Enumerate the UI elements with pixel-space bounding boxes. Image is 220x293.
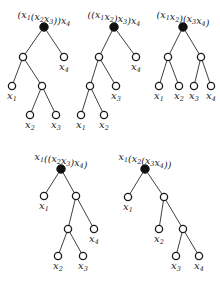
leaf-label: x1 — [123, 201, 133, 214]
tree-edge — [160, 60, 167, 82]
leaf-node-x2 — [54, 252, 61, 259]
leaf-label: x4 — [131, 61, 141, 74]
root-node — [141, 165, 149, 173]
root-node — [179, 23, 187, 31]
leaf-node-x4 — [90, 225, 97, 232]
tree-edge — [59, 232, 66, 252]
leaf-label: x3 — [78, 260, 88, 273]
tree-edge — [116, 30, 133, 54]
inner-node — [72, 192, 79, 199]
leaf-label: x1 — [154, 90, 164, 103]
leaf-node-x2 — [26, 111, 33, 118]
leaf-node-x4 — [207, 82, 214, 89]
inner-node — [197, 53, 204, 60]
tree-3: x1x2x3x4(x1x2)(x3x4) — [154, 9, 216, 103]
leaf-node-x3 — [172, 252, 179, 259]
leaf-node-x1 — [8, 82, 15, 89]
tree-edge — [195, 60, 200, 82]
leaf-node-x1 — [155, 82, 162, 89]
tree-edge — [166, 200, 181, 226]
inner-node — [19, 53, 26, 60]
tree-edge — [69, 199, 75, 225]
leaf-label: x2 — [25, 119, 35, 132]
root-node — [40, 23, 48, 31]
leaf-label: x3 — [189, 90, 199, 103]
leaf-label: x2 — [154, 233, 164, 246]
bracketing-trees-diagram: x4x1x2x3(x1(x2x3))x4x4x3x1x2((x1x2)x3)x4… — [0, 0, 220, 293]
inner-node — [179, 225, 186, 232]
leaf-node-x1 — [77, 111, 84, 118]
leaf-label: x2 — [53, 260, 63, 273]
leaf-label: x4 — [89, 233, 99, 246]
tree-edge — [44, 89, 55, 112]
leaf-label: x3 — [111, 90, 121, 103]
tree-edge — [130, 173, 143, 194]
tree-edge — [177, 232, 182, 252]
tree-edge — [82, 89, 89, 111]
leaf-node-x3 — [112, 82, 119, 89]
leaf-node-x4 — [132, 53, 139, 60]
leaf-node-x2 — [175, 82, 182, 89]
leaf-label: x4 — [206, 90, 216, 103]
tree-edge — [169, 60, 177, 82]
leaf-label: x4 — [59, 61, 69, 74]
leaf-node-x4 — [60, 53, 67, 60]
leaf-node-x3 — [52, 111, 59, 118]
leaf-node-x1 — [40, 192, 47, 199]
root-node — [110, 23, 118, 31]
inner-node — [64, 225, 71, 232]
tree-edge — [25, 30, 42, 54]
tree-edge — [160, 201, 164, 226]
tree-edge — [31, 89, 40, 111]
leaf-label: x3 — [171, 260, 181, 273]
tree-edge — [101, 60, 114, 83]
tree-edge — [147, 172, 162, 194]
inner-node — [95, 53, 102, 60]
root-node — [57, 165, 65, 173]
tree-edge — [46, 173, 59, 193]
tree-edge — [46, 30, 62, 54]
tree-edge — [63, 173, 74, 193]
tree-edge — [92, 89, 103, 112]
tree-edge — [101, 31, 113, 54]
leaf-label: x3 — [51, 119, 61, 132]
leaf-node-x3 — [190, 82, 197, 89]
tree-edge — [78, 199, 93, 226]
tree-4: x1x4x2x3x1((x2x3)x4) — [35, 151, 99, 273]
leaf-label: x2 — [174, 90, 184, 103]
leaf-label: x1 — [7, 90, 17, 103]
inner-node — [160, 193, 167, 200]
leaf-label: x1 — [76, 119, 86, 132]
leaf-node-x2 — [155, 225, 162, 232]
tree-edge — [13, 60, 21, 82]
tree-edge — [91, 60, 98, 82]
tree-edge — [185, 232, 197, 253]
leaf-label: x2 — [99, 119, 109, 132]
leaf-node-x3 — [79, 252, 86, 259]
inner-node — [38, 82, 45, 89]
tree-5: x1x2x3x4x1(x2(x3x4)) — [119, 151, 204, 273]
tree-edge — [70, 232, 82, 253]
tree-2: x4x3x1x2((x1x2)x3)x4 — [76, 9, 141, 132]
tree-edge — [25, 60, 40, 83]
inner-node — [164, 53, 171, 60]
leaf-label: x4 — [194, 260, 204, 273]
tree-edge — [185, 31, 199, 54]
tree-1: x4x1x2x3(x1(x2x3))x4 — [7, 9, 70, 132]
tree-edge — [202, 60, 210, 82]
inner-node — [86, 82, 93, 89]
leaf-node-x1 — [124, 193, 131, 200]
leaf-node-x4 — [195, 252, 202, 259]
leaf-label: x1 — [39, 200, 49, 213]
leaf-node-x2 — [100, 111, 107, 118]
tree-edge — [170, 31, 182, 54]
